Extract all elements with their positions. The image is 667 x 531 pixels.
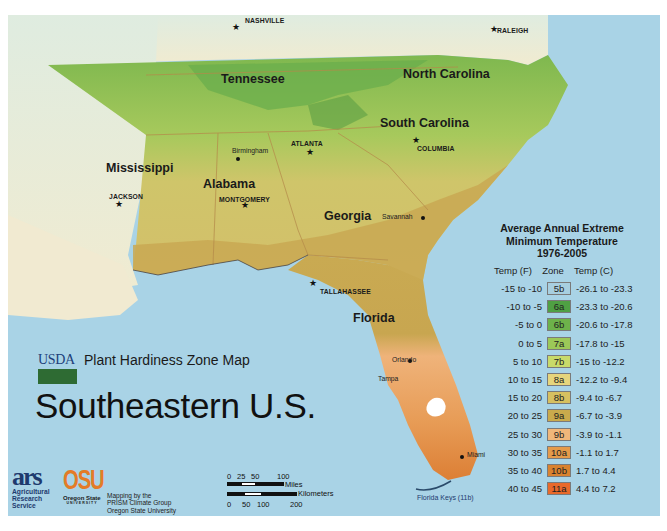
state-label-florida: Florida <box>353 311 395 325</box>
legend-col-c: Temp (C) <box>574 265 613 276</box>
miles-bar <box>227 482 284 486</box>
legend-row: 5 to 107b-15 to -12.2 <box>472 352 652 370</box>
legend-row: 30 to 3510a-1.1 to 1.7 <box>472 443 652 461</box>
state-label-north-carolina: North Carolina <box>403 67 490 81</box>
legend-row: 35 to 4010b1.7 to 4.4 <box>472 461 652 479</box>
star-icon: ★ <box>115 200 123 209</box>
zone-swatch: 11a <box>547 482 571 495</box>
legend-title-3: 1976-2005 <box>472 247 652 260</box>
zone-swatch: 8a <box>547 373 571 386</box>
zone-swatch: 7b <box>547 355 571 368</box>
miles-bar-segment <box>242 483 255 485</box>
capital-jackson: JACKSON <box>109 193 143 200</box>
zone-swatch: 9a <box>547 409 571 422</box>
legend-rows: -15 to -105b-26.1 to -23.3 -10 to -56a-2… <box>472 280 652 498</box>
city-savannah: Savannah <box>382 213 413 220</box>
km-bar <box>227 492 297 496</box>
capital-columbia: COLUMBIA <box>417 145 454 152</box>
zone-swatch: 8b <box>547 391 571 404</box>
legend-col-f: Temp (F) <box>472 265 532 276</box>
legend-col-zone: Zone <box>538 265 568 276</box>
scale-bar: 0 25 50 100 Miles Kilometers 0 50 100 20… <box>227 472 377 514</box>
zone-swatch: 6b <box>547 318 571 331</box>
star-icon: ★ <box>232 23 240 32</box>
km-label: Kilometers <box>298 489 333 498</box>
zone-swatch: 5b <box>547 282 571 295</box>
star-icon: ★ <box>309 279 317 288</box>
legend-row: -10 to -56a-23.3 to -20.6 <box>472 298 652 316</box>
legend-row: 15 to 208b-9.4 to -6.7 <box>472 389 652 407</box>
capital-tallahassee: TALLAHASSEE <box>320 288 371 295</box>
star-icon: ★ <box>306 148 314 157</box>
legend-row: 25 to 309b-3.9 to -1.1 <box>472 425 652 443</box>
prism-credit: Mapping by the PRISM Climate Group Orego… <box>107 492 176 514</box>
city-tampa: Tampa <box>378 375 398 382</box>
state-label-georgia: Georgia <box>324 209 371 223</box>
zone-swatch: 9b <box>547 428 571 441</box>
legend-row: -15 to -105b-26.1 to -23.3 <box>472 280 652 298</box>
capital-atlanta: ATLANTA <box>291 140 323 147</box>
usda-logo: USDA <box>38 352 78 386</box>
zone-swatch: 10a <box>547 446 571 459</box>
map-name: Plant Hardiness Zone Map <box>84 352 250 368</box>
state-label-tennessee: Tennessee <box>221 72 285 86</box>
florida-keys-label: Florida Keys (11b) <box>417 494 474 501</box>
legend-row: -5 to 06b-20.6 to -17.8 <box>472 316 652 334</box>
legend-row: 40 to 4511a4.4 to 7.2 <box>472 480 652 498</box>
legend-title-1: Average Annual Extreme <box>472 222 652 235</box>
city-dot <box>421 216 425 220</box>
km-bar-segment <box>245 493 261 495</box>
legend-title-2: Minimum Temperature <box>472 235 652 248</box>
legend-row: 20 to 259a-6.7 to -3.9 <box>472 407 652 425</box>
star-icon: ★ <box>412 136 420 145</box>
capital-montgomery: MONTGOMERY <box>219 196 270 203</box>
capital-raleigh: RALEIGH <box>497 27 528 34</box>
capital-nashville: NASHVILLE <box>245 17 284 24</box>
state-label-south-carolina: South Carolina <box>380 116 469 130</box>
ars-logo: ars Agricultural Research Service <box>12 466 62 512</box>
state-label-alabama: Alabama <box>203 177 255 191</box>
legend-row: 10 to 158a-12.2 to -9.4 <box>472 370 652 388</box>
zone-swatch: 6a <box>547 300 571 313</box>
state-label-mississippi: Mississippi <box>106 161 173 175</box>
city-dot <box>236 157 240 161</box>
miles-label: Miles <box>285 480 303 489</box>
legend-row: 0 to 57a-17.8 to -15 <box>472 334 652 352</box>
city-dot <box>460 455 464 459</box>
legend-header: Temp (F) Zone Temp (C) <box>472 265 652 276</box>
city-birmingham: Birmingham <box>232 147 268 154</box>
region-title: Southeastern U.S. <box>35 386 316 426</box>
city-orlando: Orlando <box>392 356 416 363</box>
zone-swatch: 7a <box>547 337 571 350</box>
usda-field-icon <box>38 369 77 384</box>
zone-swatch: 10b <box>547 464 571 477</box>
legend: Average Annual Extreme Minimum Temperatu… <box>472 222 652 498</box>
osu-logo: OSU Oregon State UNIVERSITY <box>63 465 101 513</box>
